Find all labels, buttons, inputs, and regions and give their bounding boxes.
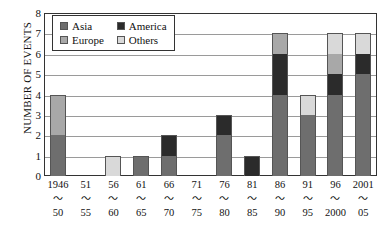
y-axis-tick-label: 7 bbox=[11, 28, 41, 38]
y-axis-tick-label: 1 bbox=[11, 151, 41, 161]
x-tick-end-year: 2000 bbox=[322, 206, 350, 220]
bar-segment-america[interactable] bbox=[327, 74, 343, 94]
x-tick-range-separator: 〜 bbox=[44, 192, 72, 206]
bar-slot bbox=[183, 13, 211, 176]
legend-item-asia[interactable]: Asia bbox=[60, 20, 104, 32]
y-axis-tick-label: 0 bbox=[11, 171, 41, 181]
legend-label: Europe bbox=[72, 34, 104, 46]
bar-segment-asia[interactable] bbox=[50, 135, 66, 176]
bar-segment-others[interactable] bbox=[105, 156, 121, 176]
x-axis-tick-labels: 1946〜5051〜5556〜6061〜6566〜7071〜7576〜8081〜… bbox=[44, 178, 377, 234]
chart-container: NUMBER OF EVENTS 876543210 1946〜5051〜555… bbox=[0, 0, 387, 236]
x-tick-start-year: 86 bbox=[266, 178, 294, 192]
y-axis-tick-label: 3 bbox=[11, 110, 41, 120]
x-axis-tick-label: 96〜2000 bbox=[322, 178, 350, 220]
stacked-bar[interactable] bbox=[355, 33, 371, 176]
legend-swatch-icon bbox=[60, 22, 68, 30]
bar-segment-others[interactable] bbox=[300, 95, 316, 115]
x-tick-end-year: 55 bbox=[72, 206, 100, 220]
x-tick-start-year: 51 bbox=[72, 178, 100, 192]
stacked-bar[interactable] bbox=[216, 115, 232, 176]
bar-slot bbox=[349, 13, 377, 176]
bar-segment-america[interactable] bbox=[161, 135, 177, 155]
legend-item-america[interactable]: America bbox=[117, 20, 167, 32]
bar-segment-asia[interactable] bbox=[161, 156, 177, 176]
legend-label: Asia bbox=[72, 20, 92, 32]
bar-segment-america[interactable] bbox=[244, 156, 260, 176]
bar-segment-asia[interactable] bbox=[300, 115, 316, 176]
bar-slot bbox=[238, 13, 266, 176]
x-tick-range-separator: 〜 bbox=[238, 192, 266, 206]
y-axis-tick-label: 8 bbox=[11, 8, 41, 18]
bar-segment-asia[interactable] bbox=[272, 95, 288, 177]
x-axis-tick-label: 2001〜05 bbox=[349, 178, 377, 220]
bar-segment-asia[interactable] bbox=[327, 95, 343, 177]
legend-label: Others bbox=[129, 34, 158, 46]
x-axis-tick-label: 71〜75 bbox=[183, 178, 211, 220]
stacked-bar[interactable] bbox=[327, 33, 343, 176]
x-tick-start-year: 71 bbox=[183, 178, 211, 192]
x-axis-tick-label: 51〜55 bbox=[72, 178, 100, 220]
chart-legend: AsiaAmericaEuropeOthers bbox=[52, 15, 175, 51]
y-axis-tick-label: 4 bbox=[11, 90, 41, 100]
stacked-bar[interactable] bbox=[161, 135, 177, 176]
x-axis-tick-label: 81〜85 bbox=[238, 178, 266, 220]
x-tick-end-year: 95 bbox=[294, 206, 322, 220]
x-tick-range-separator: 〜 bbox=[349, 192, 377, 206]
x-axis-tick-label: 86〜90 bbox=[266, 178, 294, 220]
legend-swatch-icon bbox=[117, 22, 125, 30]
x-tick-end-year: 80 bbox=[211, 206, 239, 220]
x-axis-tick-label: 91〜95 bbox=[294, 178, 322, 220]
y-axis-tick-label: 5 bbox=[11, 69, 41, 79]
x-tick-start-year: 2001 bbox=[349, 178, 377, 192]
bar-segment-asia[interactable] bbox=[133, 156, 149, 176]
stacked-bar[interactable] bbox=[133, 156, 149, 176]
x-tick-range-separator: 〜 bbox=[211, 192, 239, 206]
x-tick-start-year: 91 bbox=[294, 178, 322, 192]
bar-segment-america[interactable] bbox=[355, 54, 371, 74]
bar-slot bbox=[294, 13, 322, 176]
x-tick-end-year: 90 bbox=[266, 206, 294, 220]
bar-segment-europe[interactable] bbox=[272, 33, 288, 53]
x-tick-range-separator: 〜 bbox=[100, 192, 128, 206]
bar-segment-europe[interactable] bbox=[327, 54, 343, 74]
y-axis-tick-label: 2 bbox=[11, 130, 41, 140]
x-axis-tick-label: 56〜60 bbox=[100, 178, 128, 220]
x-tick-start-year: 81 bbox=[238, 178, 266, 192]
bar-segment-america[interactable] bbox=[216, 115, 232, 135]
stacked-bar[interactable] bbox=[105, 156, 121, 176]
bar-segment-asia[interactable] bbox=[355, 74, 371, 176]
legend-item-others[interactable]: Others bbox=[117, 34, 167, 46]
x-tick-start-year: 61 bbox=[127, 178, 155, 192]
x-tick-start-year: 76 bbox=[211, 178, 239, 192]
bar-slot bbox=[211, 13, 239, 176]
x-axis-tick-label: 66〜70 bbox=[155, 178, 183, 220]
bar-segment-asia[interactable] bbox=[216, 135, 232, 176]
bar-segment-others[interactable] bbox=[327, 33, 343, 53]
x-tick-end-year: 75 bbox=[183, 206, 211, 220]
x-tick-range-separator: 〜 bbox=[266, 192, 294, 206]
x-tick-end-year: 60 bbox=[100, 206, 128, 220]
legend-swatch-icon bbox=[60, 36, 68, 44]
stacked-bar[interactable] bbox=[272, 33, 288, 176]
x-axis-tick-label: 76〜80 bbox=[211, 178, 239, 220]
x-tick-start-year: 1946 bbox=[44, 178, 72, 192]
stacked-bar[interactable] bbox=[244, 156, 260, 176]
legend-swatch-icon bbox=[117, 36, 125, 44]
x-tick-end-year: 50 bbox=[44, 206, 72, 220]
bar-segment-others[interactable] bbox=[355, 33, 371, 53]
x-tick-range-separator: 〜 bbox=[155, 192, 183, 206]
bar-segment-europe[interactable] bbox=[50, 95, 66, 136]
stacked-bar[interactable] bbox=[300, 95, 316, 177]
x-tick-range-separator: 〜 bbox=[183, 192, 211, 206]
legend-label: America bbox=[129, 20, 167, 32]
bar-segment-america[interactable] bbox=[272, 54, 288, 95]
x-tick-end-year: 70 bbox=[155, 206, 183, 220]
x-tick-end-year: 65 bbox=[127, 206, 155, 220]
legend-item-europe[interactable]: Europe bbox=[60, 34, 104, 46]
x-tick-range-separator: 〜 bbox=[294, 192, 322, 206]
x-tick-start-year: 66 bbox=[155, 178, 183, 192]
x-tick-start-year: 56 bbox=[100, 178, 128, 192]
stacked-bar[interactable] bbox=[50, 95, 66, 177]
bar-slot bbox=[266, 13, 294, 176]
